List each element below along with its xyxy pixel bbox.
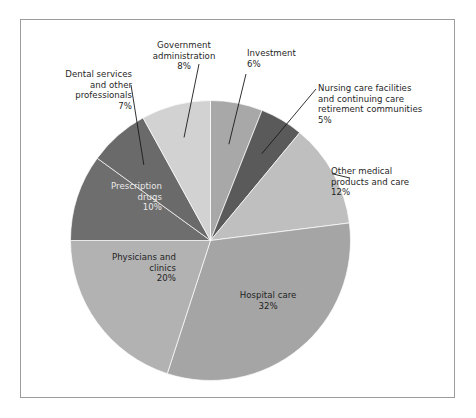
slice-label-hospital-text: Hospital care: [240, 290, 297, 300]
slice-label-government-text: Government administration: [153, 40, 216, 61]
slice-label-nursing-pct: 5%: [318, 115, 332, 125]
slice-label-hospital-care: Hospital care 32%: [222, 290, 314, 311]
slice-label-physicians-clinics: Physicians and clinics 20%: [82, 252, 176, 284]
slice-label-government-administration: Government administration 8%: [132, 40, 236, 72]
slice-label-nursing-care: Nursing care facilities and continuing c…: [318, 83, 458, 125]
slice-label-hospital-pct: 32%: [258, 301, 277, 311]
slice-label-dental-pct: 7%: [118, 101, 132, 111]
slice-label-physicians-text: Physicians and clinics: [112, 252, 176, 273]
slice-label-dental-services: Dental services and other professionals …: [28, 69, 132, 111]
slice-label-nursing-text: Nursing care facilities and continuing c…: [318, 83, 422, 114]
slice-label-physicians-pct: 20%: [157, 273, 176, 283]
slice-label-other-medical: Other medical products and care 12%: [331, 166, 449, 198]
slice-label-investment-pct: 6%: [247, 59, 261, 69]
slice-label-investment: Investment 6%: [247, 48, 317, 69]
pie-slices-group: [71, 101, 351, 381]
slice-label-prescription-pct: 10%: [143, 202, 162, 212]
slice-label-prescription-drugs: Prescription drugs 10%: [76, 181, 162, 213]
slice-label-prescription-text: Prescription drugs: [111, 181, 162, 202]
slice-label-investment-text: Investment: [247, 48, 296, 58]
pie-chart-figure: Dental services and other professionals …: [0, 0, 476, 418]
slice-label-government-pct: 8%: [177, 61, 191, 71]
slice-label-other-medical-text: Other medical products and care: [331, 166, 409, 187]
slice-label-dental-text: Dental services and other professionals: [65, 69, 132, 100]
slice-label-other-medical-pct: 12%: [331, 187, 350, 197]
pie-chart-svg: [0, 0, 476, 418]
